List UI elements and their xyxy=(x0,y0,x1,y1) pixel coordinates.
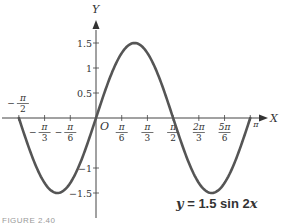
sine-chart: X Y π2−π3−π6−Oπ6π3π22π35π6π 1.510.5−1−1.… xyxy=(0,0,284,224)
svg-text:−: − xyxy=(7,98,15,108)
x-tick: 5π6 xyxy=(219,115,232,143)
y-axis-label: Y xyxy=(92,3,101,16)
svg-text:π: π xyxy=(252,120,259,129)
svg-text:2: 2 xyxy=(20,104,26,114)
y-axis-arrow-icon xyxy=(93,20,100,29)
equation-rhs: = 1.5 sin 2 xyxy=(184,196,250,211)
svg-text:1: 1 xyxy=(86,63,92,74)
svg-text:−1.5: −1.5 xyxy=(69,188,92,199)
svg-text:1.5: 1.5 xyxy=(77,38,92,49)
svg-text:O: O xyxy=(100,120,109,133)
svg-text:2: 2 xyxy=(170,133,176,143)
svg-text:3: 3 xyxy=(196,133,202,143)
svg-text:2π: 2π xyxy=(192,122,206,132)
svg-text:6: 6 xyxy=(119,133,125,143)
y-tick: 1 xyxy=(86,63,99,74)
svg-text:0.5: 0.5 xyxy=(77,88,92,99)
equation-label: y = 1.5 sin 2x xyxy=(176,196,257,211)
y-tick: −1.5 xyxy=(69,188,99,199)
x-tick: π2− xyxy=(7,93,29,121)
x-tick: O xyxy=(100,120,109,133)
x-tick: π3 xyxy=(141,115,153,143)
svg-text:−: − xyxy=(29,127,37,137)
x-tick: π6 xyxy=(116,115,128,143)
svg-text:π: π xyxy=(143,122,151,132)
figure-caption: FIGURE 2.40 xyxy=(2,216,56,224)
x-axis-arrow-icon xyxy=(259,115,268,122)
x-tick: 2π3 xyxy=(192,115,206,143)
svg-text:−: − xyxy=(55,127,63,137)
svg-text:3: 3 xyxy=(145,133,151,143)
equation-lhs: y xyxy=(176,196,184,211)
svg-text:5π: 5π xyxy=(219,122,232,132)
svg-text:π: π xyxy=(66,122,74,132)
svg-text:π: π xyxy=(41,122,49,132)
x-tick: π6− xyxy=(55,115,77,143)
x-axis-label: X xyxy=(269,112,279,125)
x-tick: π3− xyxy=(29,115,51,143)
svg-text:π: π xyxy=(118,122,126,132)
svg-text:π: π xyxy=(19,93,27,103)
svg-text:6: 6 xyxy=(222,133,228,143)
x-tick: π xyxy=(250,115,259,129)
equation-var: x xyxy=(250,196,258,211)
svg-text:6: 6 xyxy=(67,133,73,143)
svg-text:3: 3 xyxy=(42,133,48,143)
